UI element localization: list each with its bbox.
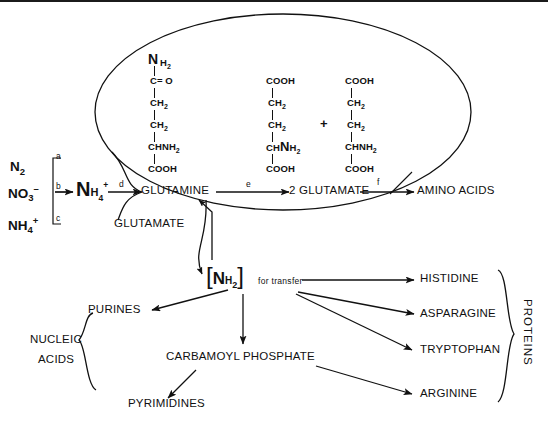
chem-row-chnh2: CHNH2	[148, 142, 180, 154]
bracket-open: [	[206, 262, 213, 289]
chem-row-ch2-2: CH2	[150, 120, 168, 132]
chem-row-cooh: COOH	[266, 76, 295, 86]
input-n2: N2	[10, 160, 25, 176]
chem-row-c-o: C= O	[150, 76, 173, 86]
node-asparagine: ASPARAGINE	[420, 308, 496, 320]
chem-row-ch2-1: CH2	[347, 98, 365, 110]
cell-outline	[95, 14, 471, 210]
node-arginine: ARGININE	[420, 388, 477, 400]
input-nh4: NH4+	[8, 216, 38, 235]
nh2-group: NH2	[213, 269, 238, 288]
chem-row-ch2-2: CH2	[347, 120, 365, 132]
diagram-canvas: N2 NO3– NH4+ a b c NH4+ d e f N H2 C= O …	[0, 0, 548, 425]
enzyme-label-c: c	[56, 214, 60, 223]
enzyme-label-a: a	[56, 152, 61, 161]
node-ammonium-hub: NH4+	[76, 179, 108, 203]
input-no3: NO3–	[8, 184, 39, 203]
chem-row-cooh2: COOH	[266, 164, 295, 174]
chem-row-ch2-1: CH2	[150, 98, 168, 110]
curve-into-glutamine	[112, 152, 142, 192]
chem-row-cooh: COOH	[148, 164, 177, 174]
node-nh2-transfer: [NH2]	[206, 264, 244, 290]
chem-row-chnh2: CHNH2	[266, 140, 300, 155]
chem-row-ch2-1: CH2	[268, 98, 286, 110]
enzyme-label-b: b	[56, 182, 61, 191]
node-carbamoyl-phosphate: CARBAMOYL PHOSPHATE	[166, 351, 315, 363]
node-amino-acids: AMINO ACIDS	[417, 185, 495, 197]
chem-row-chnh2: CHNH2	[345, 142, 377, 154]
bracket-close: ]	[237, 262, 244, 289]
node-tryptophan: TRYPTOPHAN	[420, 344, 500, 356]
chem-row-cooh2: COOH	[345, 164, 374, 174]
curve-glutamate-out	[118, 192, 142, 220]
proteins-brace	[498, 270, 514, 402]
node-nucleic-acids-line1: NUCLEIC	[30, 334, 82, 346]
node-pyrimidines: PYRIMIDINES	[128, 398, 205, 410]
arrow-carbamoyl-to-pyrimidines	[168, 370, 196, 398]
enzyme-label-f: f	[377, 178, 379, 187]
node-histidine: HISTIDINE	[420, 273, 479, 285]
chem-row-cooh: COOH	[345, 76, 374, 86]
node-glutamine: GLUTAMINE	[141, 185, 209, 197]
chem-row-ch2-2: CH2	[268, 120, 286, 132]
chem-atom-N: N	[148, 52, 158, 66]
nh2-transfer-caption: for transfer	[258, 277, 303, 286]
node-nucleic-acids-line2: ACIDS	[38, 354, 74, 366]
node-purines: PURINES	[88, 304, 141, 316]
enzyme-label-e: e	[246, 180, 251, 189]
arrow-nh2-to-purines	[152, 290, 228, 310]
nucleic-acids-brace	[79, 313, 96, 390]
node-glutamate-feedback: GLUTAMATE	[114, 218, 184, 230]
node-two-glutamate: 2 GLUTAMATE	[289, 185, 369, 197]
chem-group-H2: H2	[160, 58, 171, 70]
enzyme-label-d: d	[119, 180, 124, 189]
tick-f	[390, 172, 412, 194]
node-proteins-group: PROTEINS	[522, 299, 534, 366]
arrow-carbamoyl-to-arginine	[316, 366, 412, 394]
chem-operator-plus: +	[320, 117, 328, 130]
